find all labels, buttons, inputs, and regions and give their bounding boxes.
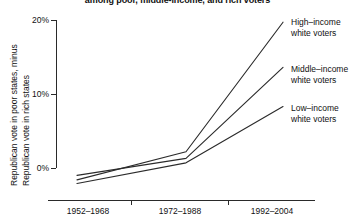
- series-label-middle-income-line1: Middle–income: [291, 64, 348, 75]
- series-label-high-income-line1: High–income: [291, 17, 341, 28]
- series-line-high-income: [77, 22, 283, 180]
- series-line-middle-income: [77, 67, 283, 175]
- series-label-high-income: High–income white voters: [291, 17, 341, 39]
- series-label-low-income: Low–income white voters: [291, 103, 339, 125]
- series-label-low-income-line1: Low–income: [291, 103, 339, 114]
- chart-figure: among poor, middle-income, and rich vote…: [0, 0, 355, 223]
- series-label-high-income-line2: white voters: [291, 28, 341, 39]
- series-label-low-income-line2: white voters: [291, 114, 339, 125]
- series-label-middle-income: Middle–income white voters: [291, 64, 348, 86]
- series-label-middle-income-line2: white voters: [291, 75, 348, 86]
